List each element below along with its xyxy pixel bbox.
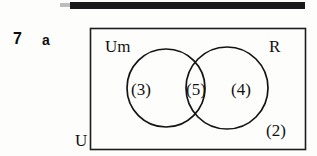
region-count-outside: (2)	[266, 121, 286, 140]
page-top-rule	[70, 2, 305, 9]
venn-diagram: Um R (3) (5) (4) (2) U	[62, 24, 312, 154]
question-part-label: a	[42, 33, 50, 47]
universal-set-label: U	[75, 131, 87, 150]
set-label-right: R	[269, 37, 281, 56]
region-count-right-only: (4)	[231, 80, 251, 99]
question-number: 7	[13, 31, 22, 47]
figure-root: 7 a Um R (3) (5) (4) (2) U	[0, 0, 317, 156]
set-label-left: Um	[105, 37, 131, 56]
region-count-intersection: (5)	[186, 80, 206, 99]
page-top-smudge	[60, 3, 70, 7]
region-count-left-only: (3)	[131, 80, 151, 99]
